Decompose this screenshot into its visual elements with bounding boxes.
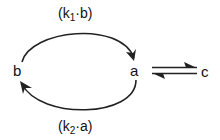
node-c: c xyxy=(201,64,209,79)
arrow-a-to-b xyxy=(20,80,136,110)
node-a: a xyxy=(130,63,138,78)
equilibrium-arrows xyxy=(152,62,197,79)
label-bottom-prefix: (k xyxy=(58,118,70,134)
arrow-b-to-a xyxy=(22,33,136,62)
label-top-suffix: ·b) xyxy=(75,5,92,21)
label-top-rate: (k1·b) xyxy=(58,6,92,23)
label-bottom-rate: (k2·a) xyxy=(58,119,92,136)
arrowhead-icon xyxy=(20,81,32,94)
node-b: b xyxy=(13,63,21,78)
diagram-canvas xyxy=(0,0,220,140)
label-top-prefix: (k xyxy=(58,5,70,21)
label-bottom-suffix: ·a) xyxy=(75,118,92,134)
